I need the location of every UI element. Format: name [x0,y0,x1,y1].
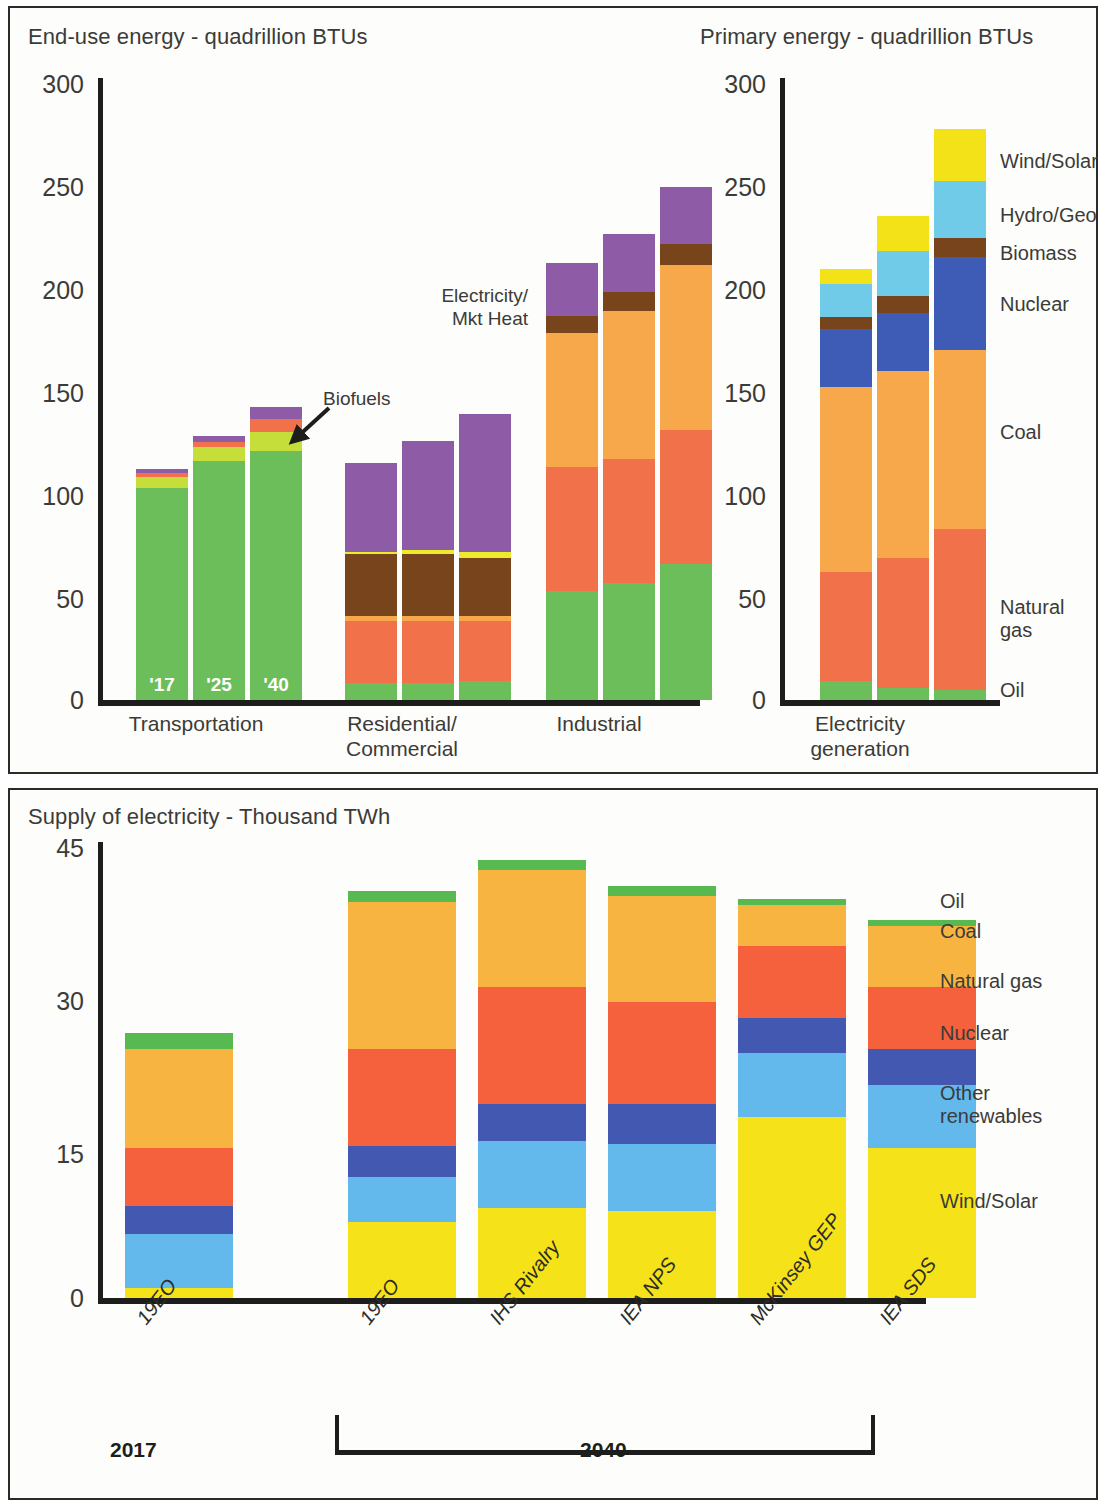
segment-biomass [402,554,454,616]
bar-transportation-25: '25 [193,436,245,700]
segment-electricity [603,234,655,292]
segment-nuclear [478,1104,586,1141]
ytick-100: 100 [700,482,766,511]
segment-nuclear [608,1104,716,1144]
segment-oil [478,860,586,870]
segment-oil [348,891,456,902]
segment-biofuels [136,477,188,488]
segment-other-renewables [608,1144,716,1211]
segment-biomass [877,296,929,313]
panel-bottom-supply: Supply of electricity - Thousand TWh 45 … [8,788,1098,1500]
segment-biofuels [193,447,245,461]
segment-coal [348,902,456,1049]
legend-wind-solar: Wind/Solar [940,1190,1038,1213]
segment-coal [478,870,586,987]
segment-biomass [820,317,872,329]
segment-natural-gas [546,467,598,591]
segment-natural-gas [478,987,586,1104]
bar-industrial-17 [546,263,598,700]
ytick-0: 0 [10,686,84,715]
segment-oil [125,1033,233,1049]
segment-oil [603,583,655,700]
annotation-electricity-mkt-heat: Electricity/ Mkt Heat [408,285,528,331]
segment-natural-gas [820,572,872,681]
segment-other-renewables [348,1177,456,1222]
bar-transportation-17: '17 [136,469,188,700]
segment-hydro-geo [934,181,986,238]
segment-electricity [402,441,454,550]
segment-nuclear [868,1049,976,1085]
legend-nuclear: Nuclear [1000,293,1069,316]
segment-coal [546,333,598,467]
bar-2040-ihs-rivalry [478,860,586,1298]
segment-natural-gas [608,1002,716,1104]
ytick-100: 100 [10,482,84,511]
bar-electricity-gen-25 [877,216,929,700]
segment-coal [934,350,986,529]
segment-electricity [459,414,511,552]
segment-natural-gas [348,1049,456,1146]
xcat-transportation: Transportation [106,712,286,737]
ytick-0: 0 [700,686,766,715]
segment-oil [546,591,598,700]
segment-hydro-geo [820,284,872,317]
segment-coal [608,896,716,1002]
legend-oil: Oil [940,890,964,913]
ytick-50: 50 [700,585,766,614]
segment-oil [934,690,986,700]
segment-nuclear [877,313,929,371]
ytick-250: 250 [10,173,84,202]
segment-oil [877,688,929,700]
x-axis-line-left [98,700,700,706]
legend-nuclear: Nuclear [940,1022,1009,1045]
ytick-150: 150 [700,379,766,408]
segment-oil [402,683,454,700]
segment-other-renewables [125,1234,233,1288]
segment-natural-gas [402,621,454,683]
ytick-250: 250 [700,173,766,202]
ytick-200: 200 [700,276,766,305]
segment-nuclear [125,1206,233,1234]
segment-wind-solar [877,216,929,251]
segment-hydro-geo [877,251,929,296]
segment-other-renewables [738,1053,846,1117]
segment-coal [603,311,655,459]
segment-wind-solar [820,269,872,284]
segment-wind-solar [934,129,986,181]
legend-natural-gas: Natural gas [940,970,1042,993]
era-label-2017: 2017 [110,1438,157,1462]
segment-natural-gas [345,621,397,683]
segment-coal [738,905,846,946]
plot-end-use-energy: 300 250 200 150 100 50 0 '17 [10,8,710,776]
legend-coal: Coal [1000,421,1041,444]
x-axis-line-right [780,700,1000,706]
segment-nuclear [820,329,872,387]
ytick-0: 0 [10,1284,84,1313]
segment-coal [125,1049,233,1148]
segment-biomass [546,316,598,333]
ytick-45: 45 [10,834,84,863]
era-label-2040: 2040 [580,1438,627,1462]
segment-biomass [345,554,397,616]
legend-natural-gas: Natural gas [1000,596,1100,642]
bars-area-end-use: '17 '25 '40 [98,8,700,700]
segment-biomass [934,238,986,257]
ytick-50: 50 [10,585,84,614]
bars-area-supply [98,790,926,1298]
ytick-30: 30 [10,987,84,1016]
legend-hydro-geo: Hydro/Geo [1000,204,1097,227]
legend-other-renewables: Other renewables [940,1082,1042,1128]
bar-2017-19eo [125,1033,233,1298]
bar-rescom-40 [459,414,511,700]
segment-electricity [546,263,598,316]
ytick-300: 300 [10,70,84,99]
legend-coal: Coal [940,920,981,943]
legend-biomass: Biomass [1000,242,1077,265]
bar-electricity-gen-17 [820,269,872,700]
segment-natural-gas [603,459,655,583]
plot-supply-of-electricity: 45 30 15 0 [10,790,1100,1502]
ytick-150: 150 [10,379,84,408]
bar-rescom-17 [345,463,397,700]
segment-coal [877,371,929,558]
segment-natural-gas [877,558,929,688]
